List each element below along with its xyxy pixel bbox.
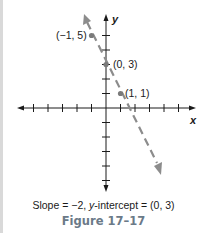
y-axis: [102, 14, 110, 192]
y-axis-up-arrow-icon: [104, 14, 109, 21]
point-neg1-5: [89, 33, 94, 38]
point-label-1-1: (1, 1): [125, 87, 150, 99]
point-label-neg1-5: (−1, 5): [56, 29, 87, 41]
point-1-1: [118, 91, 123, 96]
y-axis-label: y: [111, 13, 119, 25]
point-label-0-3: (0, 3): [113, 58, 138, 70]
caption-suffix: -intercept = (0, 3): [94, 199, 174, 211]
x-axis-left-arrow-icon: [17, 106, 24, 111]
point-0-3: [103, 62, 108, 67]
figure-label: Figure 17–17: [0, 214, 207, 228]
coordinate-plane: (−1, 5) (0, 3) (1, 1) y x: [0, 0, 207, 200]
line-bottom-arrow-icon: [154, 162, 162, 175]
x-axis-label: x: [189, 114, 197, 126]
caption-prefix: Slope = −2,: [32, 199, 89, 211]
y-axis-down-arrow-icon: [104, 185, 109, 192]
figure-caption: Slope = −2, y-intercept = (0, 3): [0, 199, 207, 211]
x-axis-right-arrow-icon: [189, 106, 196, 111]
